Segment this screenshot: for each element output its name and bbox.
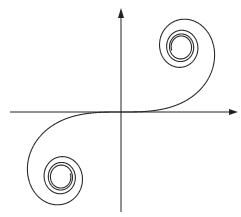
y-axis-arrowhead-icon <box>118 8 124 18</box>
euler-spiral-diagram <box>0 0 241 217</box>
plot-area <box>0 0 241 217</box>
x-axis-arrowhead-icon <box>229 109 238 115</box>
